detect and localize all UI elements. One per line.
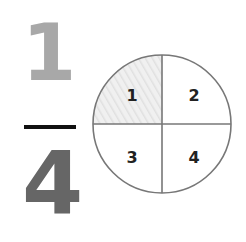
quadrant-1-label: 1	[126, 86, 137, 105]
quadrant-4-label: 4	[188, 148, 199, 167]
quadrant-3-label: 3	[126, 148, 137, 167]
quartered-circle-diagram: 1 2 3 4	[0, 0, 246, 242]
quadrant-2-label: 2	[188, 86, 199, 105]
